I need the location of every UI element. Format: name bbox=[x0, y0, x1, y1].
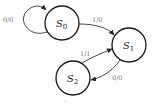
label-s1-s2: 0/0 bbox=[112, 74, 122, 82]
state-diagram: 0/0 1/0 1/1 0/0 S0 S1 S2 bbox=[0, 0, 160, 106]
transition-s0-s1 bbox=[79, 24, 114, 35]
label-s0-self: 0/0 bbox=[3, 16, 13, 24]
state-s1: S1 bbox=[112, 28, 146, 62]
transition-s0-self-loop bbox=[23, 6, 47, 33]
artifact-dot bbox=[64, 100, 65, 101]
state-s2: S2 bbox=[56, 61, 90, 95]
label-s0-s1: 1/0 bbox=[92, 16, 102, 24]
label-s2-s1: 1/1 bbox=[80, 50, 90, 58]
state-s0: S0 bbox=[45, 6, 79, 40]
